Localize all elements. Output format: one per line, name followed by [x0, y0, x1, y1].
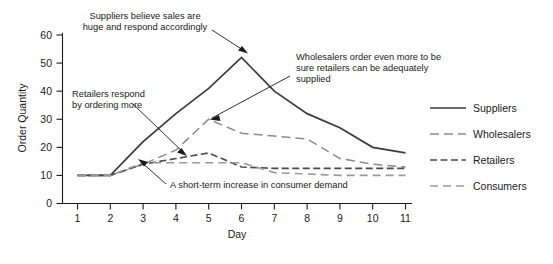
- y-tick-label: 0: [46, 197, 52, 209]
- retailers-annotation: Retailers respond by ordering more: [72, 89, 145, 110]
- wholesalers-annotation: Wholesalers order even more to be sure r…: [296, 52, 441, 84]
- series-line-suppliers: [78, 57, 406, 175]
- x-tick-label: 10: [367, 212, 379, 224]
- series-group: [78, 57, 406, 175]
- chart-legend: SuppliersWholesalersRetailersConsumers: [430, 102, 531, 192]
- x-tick-label: 11: [400, 212, 411, 224]
- legend-item-consumers[interactable]: Consumers: [430, 180, 527, 192]
- annotation-leaders: [133, 30, 290, 184]
- consumers-annotation-line-1: A short-term increase in consumer demand: [170, 180, 348, 190]
- legend-item-suppliers[interactable]: Suppliers: [430, 102, 517, 114]
- legend-label-retailers: Retailers: [473, 154, 514, 166]
- retailers-leader-arrowhead: [177, 148, 187, 156]
- legend-item-wholesalers[interactable]: Wholesalers: [430, 128, 531, 140]
- x-tick-label: 7: [271, 212, 277, 224]
- y-tick-label: 40: [40, 85, 52, 97]
- wholesalers-leader-line: [212, 76, 290, 118]
- line-chart: 0102030405060 1234567891011 Order Quanti…: [0, 0, 553, 264]
- retailers-leader-line: [133, 104, 185, 154]
- series-line-retailers: [78, 153, 406, 175]
- legend-label-suppliers: Suppliers: [473, 102, 517, 114]
- suppliers-annotation-line-2: huge and respond accordingly: [83, 22, 208, 32]
- suppliers-annotation: Suppliers believe sales are huge and res…: [83, 11, 208, 32]
- x-tick-label: 2: [107, 212, 113, 224]
- retailers-annotation-line-1: Retailers respond: [72, 89, 145, 99]
- chart-figure: 0102030405060 1234567891011 Order Quanti…: [0, 0, 553, 264]
- legend-label-wholesalers: Wholesalers: [473, 128, 531, 140]
- consumers-annotation: A short-term increase in consumer demand: [170, 180, 348, 190]
- y-tick-label: 20: [40, 141, 52, 153]
- wholesalers-annotation-line-1: Wholesalers order even more to be: [296, 52, 441, 62]
- x-tick-label: 8: [304, 212, 310, 224]
- y-tick-label: 30: [40, 113, 52, 125]
- x-tick-label: 1: [75, 212, 81, 224]
- y-axis-ticks: 0102030405060: [40, 29, 62, 210]
- y-tick-label: 60: [40, 29, 52, 41]
- y-axis-title: Order Quantity: [16, 83, 28, 153]
- wholesalers-annotation-line-3: supplied: [296, 74, 331, 84]
- x-axis-ticks: 1234567891011: [75, 204, 412, 225]
- retailers-annotation-line-2: by ordering more: [72, 100, 142, 110]
- x-tick-label: 4: [173, 212, 179, 224]
- x-tick-label: 5: [206, 212, 212, 224]
- x-tick-label: 3: [140, 212, 146, 224]
- suppliers-annotation-line-1: Suppliers believe sales are: [89, 11, 200, 21]
- x-tick-label: 9: [337, 212, 343, 224]
- suppliers-leader-arrowhead: [238, 46, 248, 54]
- legend-label-consumers: Consumers: [473, 180, 527, 192]
- x-axis-title: Day: [228, 228, 247, 240]
- y-tick-label: 50: [40, 57, 52, 69]
- wholesalers-annotation-line-2: sure retailers can be adequately: [296, 63, 429, 73]
- x-tick-label: 6: [239, 212, 245, 224]
- y-tick-label: 10: [40, 169, 52, 181]
- legend-item-retailers[interactable]: Retailers: [430, 154, 514, 166]
